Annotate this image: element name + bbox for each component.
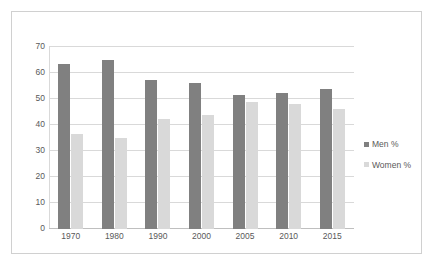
legend-swatch-icon [364,142,369,147]
bar-1980-men [102,60,114,229]
x-tick-label-1990: 1990 [148,232,167,241]
y-axis-tick-labels: 010203040506070 [12,46,45,229]
bar-1970-men [58,64,70,229]
bar-2010-women [289,104,301,229]
bar-2000-women [202,115,214,229]
y-tick-label: 50 [15,94,45,103]
y-tick-label: 60 [15,68,45,77]
bar-1990-women [158,119,170,229]
bar-group-1990 [136,46,180,229]
y-tick-label: 30 [15,146,45,155]
y-tick-label: 70 [15,42,45,51]
legend-label: Women % [372,161,411,170]
x-tick-label-2000: 2000 [192,232,211,241]
x-tick-label-1970: 1970 [61,232,80,241]
chart-legend: Men %Women % [364,140,422,181]
bar-series-layer [49,46,354,229]
bar-2015-men [320,89,332,229]
legend-item-women[interactable]: Women % [364,161,422,170]
x-tick-label-2010: 2010 [279,232,298,241]
y-tick-label: 40 [15,120,45,129]
bar-group-2010 [267,46,311,229]
bar-group-2005 [223,46,267,229]
bar-2000-men [189,83,201,229]
bar-1990-men [145,80,157,230]
bar-2005-women [246,102,258,229]
bar-2015-women [333,109,345,229]
y-tick-label: 20 [15,172,45,181]
chart-plot-wrapper: 010203040506070 197019801990200020052010… [12,12,423,255]
x-tick-label-2015: 2015 [323,232,342,241]
legend-label: Men % [372,140,398,149]
bar-group-2015 [310,46,354,229]
bar-2010-men [276,93,288,229]
bar-1970-women [71,134,83,229]
legend-swatch-icon [364,162,369,167]
y-tick-label: 10 [15,198,45,207]
bar-1980-women [115,138,127,229]
bar-group-2000 [180,46,224,229]
chart-frame: 010203040506070 197019801990200020052010… [11,11,422,254]
bar-2005-men [233,95,245,229]
x-tick-label-1980: 1980 [105,232,124,241]
bar-group-1970 [49,46,93,229]
plot-area [49,46,354,229]
bar-group-1980 [93,46,137,229]
y-tick-label: 0 [15,224,45,233]
x-tick-label-2005: 2005 [236,232,255,241]
legend-item-men[interactable]: Men % [364,140,422,149]
x-axis-tick-labels: 1970198019902000200520102015 [49,232,354,250]
